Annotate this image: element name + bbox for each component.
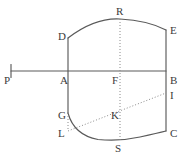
chord-L-K-I: [68, 93, 166, 131]
top-arc-D-R-E: [68, 19, 166, 38]
geometry-diagram: P A F B D R E G I K L C S: [0, 0, 190, 159]
bottom-arc-G-S-C: [68, 113, 166, 140]
diagram-canvas: [0, 0, 190, 159]
